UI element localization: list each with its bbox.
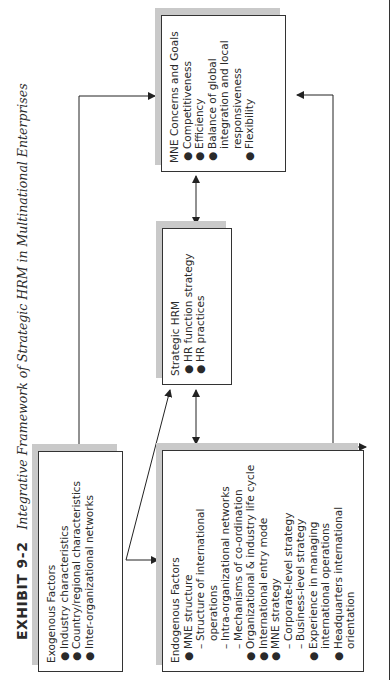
- mne-concerns-box: MNE Concerns and Goals ●Competitiveness …: [161, 15, 286, 172]
- endogenous-list: ●MNE structure –Structure of internation…: [182, 457, 357, 663]
- list-item: ●Country/regional characteristics: [70, 458, 83, 663]
- list-item: ●Flexibility: [243, 22, 256, 163]
- bullet-icon: ●: [193, 152, 206, 161]
- list-subitem: –Intra-organizational networks: [219, 457, 232, 663]
- page-rule: [389, 0, 390, 680]
- list-item: ●International entry mode: [257, 457, 270, 663]
- list-item: ●MNE strategy: [269, 457, 282, 663]
- exogenous-factors-box: Exogenous Factors ●Industry characterist…: [38, 451, 123, 672]
- list-item: ●Experience in managing international op…: [307, 457, 332, 663]
- strategic-hrm-list: ●HR function strategy ●HR practices: [182, 235, 207, 376]
- bullet-icon: ●: [182, 652, 195, 661]
- bullet-icon: ●: [182, 365, 195, 374]
- bullet-icon: ●: [269, 652, 282, 661]
- exogenous-list: ●Industry characteristics ●Country/regio…: [58, 458, 96, 663]
- list-item: ●Industry characteristics: [58, 458, 71, 663]
- bullet-icon: ●: [194, 365, 207, 374]
- list-item: ●Headquarters international orientation: [332, 457, 357, 663]
- bullet-icon: ●: [244, 652, 257, 661]
- arrow-exogenous-to-mne: [79, 96, 155, 450]
- exogenous-heading: Exogenous Factors: [45, 458, 58, 663]
- endogenous-factors-box: Endogenous Factors ●MNE structure –Struc…: [162, 450, 364, 672]
- list-subitem: –Corporate-level strategy: [282, 457, 295, 663]
- list-subitem: –Business-level strategy: [294, 457, 307, 663]
- bullet-icon: ●: [257, 652, 270, 661]
- strategic-hrm-heading: Strategic HRM: [169, 235, 182, 376]
- list-item: ●Balance of global integration and local…: [206, 22, 244, 163]
- mne-concerns-list: ●Competitiveness ●Efficiency ●Balance of…: [181, 22, 256, 163]
- bullet-icon: ●: [243, 152, 256, 161]
- bullet-icon: ●: [83, 652, 96, 661]
- arrow-endogenous-mne: [297, 95, 366, 447]
- strategic-hrm-box: Strategic HRM ●HR function strategy ●HR …: [162, 228, 232, 385]
- list-item: ●Organizational & industry life cycle: [244, 457, 257, 663]
- endogenous-heading: Endogenous Factors: [169, 457, 182, 663]
- list-item: ●MNE structure: [182, 457, 195, 663]
- list-item: ●Competitiveness: [181, 22, 194, 163]
- mne-concerns-heading: MNE Concerns and Goals: [168, 22, 181, 163]
- list-item: ●HR function strategy: [182, 235, 195, 376]
- list-subitem: –Mechanisms of co-ordination: [232, 457, 245, 663]
- bullet-icon: ●: [70, 652, 83, 661]
- bullet-icon: ●: [307, 652, 320, 661]
- bullet-icon: ●: [181, 152, 194, 161]
- list-item: ●Efficiency: [193, 22, 206, 163]
- bullet-icon: ●: [58, 652, 71, 661]
- list-item: ●Inter-organizational networks: [83, 458, 96, 663]
- list-item: ●HR practices: [194, 235, 207, 376]
- diagram-page: EXHIBIT 9-2Integrative Framework of Stra…: [0, 0, 392, 700]
- list-subitem: –Structure of international operations: [194, 457, 219, 663]
- bullet-icon: ●: [206, 152, 219, 161]
- bullet-icon: ●: [332, 652, 345, 661]
